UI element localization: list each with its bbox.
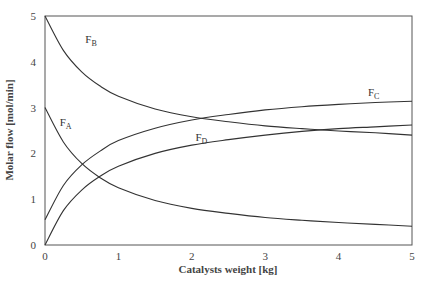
x-tick-label: 3 bbox=[262, 250, 268, 262]
plot-frame bbox=[45, 16, 412, 245]
x-axis-label: Catalysts weight [kg] bbox=[179, 263, 278, 275]
y-tick-label: 0 bbox=[31, 239, 37, 251]
x-tick-label: 1 bbox=[116, 250, 122, 262]
y-axis-ticks: 012345 bbox=[31, 10, 37, 251]
y-axis-label: Molar flow [mol/min] bbox=[3, 79, 15, 180]
y-tick-label: 2 bbox=[31, 147, 37, 159]
label-f-a: FA bbox=[60, 116, 72, 131]
curve-f-b bbox=[45, 16, 412, 135]
y-tick-label: 5 bbox=[31, 10, 37, 22]
x-tick-label: 0 bbox=[42, 250, 48, 262]
y-tick-label: 1 bbox=[31, 193, 37, 205]
y-tick-label: 4 bbox=[31, 56, 37, 68]
molar-flow-chart: 012345 012345 FAFBFCFD Catalysts weight … bbox=[0, 0, 434, 289]
curve-f-d bbox=[45, 125, 412, 245]
x-tick-label: 2 bbox=[189, 250, 195, 262]
label-f-d: FD bbox=[195, 131, 207, 146]
x-axis-ticks: 012345 bbox=[42, 250, 415, 262]
curve-f-a bbox=[45, 108, 412, 227]
x-tick-label: 4 bbox=[336, 250, 342, 262]
x-tick-label: 5 bbox=[409, 250, 415, 262]
y-tick-label: 3 bbox=[31, 102, 37, 114]
label-f-c: FC bbox=[368, 86, 379, 101]
curve-f-c bbox=[45, 101, 412, 220]
label-f-b: FB bbox=[85, 33, 96, 48]
curves bbox=[45, 16, 412, 245]
